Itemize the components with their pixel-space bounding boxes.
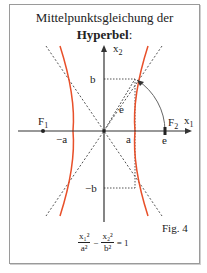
label-minus-a: −a <box>56 133 67 145</box>
fraction-term-2: x₂² b² <box>101 232 113 253</box>
label-e-axis: e <box>162 134 167 146</box>
figure-label: Fig. 4 <box>162 222 188 234</box>
hyperbola-equation: x₁² a² − x₂² b² = 1 <box>78 232 129 253</box>
label-f1: F1 <box>38 115 48 130</box>
origin-point <box>102 129 106 133</box>
label-a: a <box>126 133 131 145</box>
label-f2: F2 <box>168 116 178 131</box>
y-axis-arrow-icon <box>101 45 107 52</box>
fraction-term-1: x₁² a² <box>78 232 90 253</box>
radius-arc <box>137 80 165 131</box>
equals-one: = 1 <box>117 238 129 248</box>
label-b: b <box>90 73 96 85</box>
label-minus-b: −b <box>85 182 97 194</box>
x-axis-label: x1 <box>184 114 194 129</box>
y-axis-label: x2 <box>113 42 123 57</box>
minus-sign: − <box>93 238 98 248</box>
label-e-diagonal: e <box>119 103 124 115</box>
